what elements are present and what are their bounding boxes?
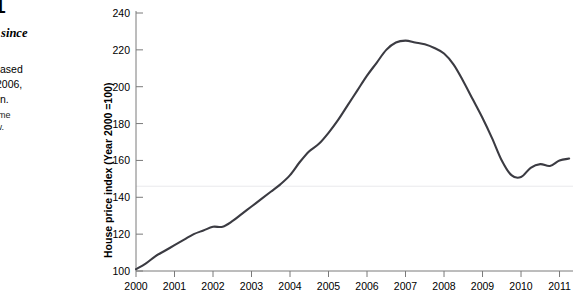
x-tick-label: 2002: [201, 280, 225, 292]
y-tick-label: 200: [112, 81, 130, 93]
x-tick-label: 2007: [394, 280, 418, 292]
figure-margin-column: 1 Prices since House price index ces inc…: [0, 0, 92, 296]
x-tick-label: 2005: [317, 280, 341, 292]
x-tick-label: 2003: [240, 280, 264, 292]
y-tick-label: 120: [112, 228, 130, 240]
y-tick-label: 220: [112, 44, 130, 56]
x-tick-label: 2008: [432, 280, 456, 292]
line-chart: House price index (Year 2000 =100) 10012…: [92, 0, 577, 296]
figure-description: House price index ces increased 2000 to …: [0, 62, 92, 107]
x-tick-label: 2004: [278, 280, 302, 292]
figure-description-line-1: ces increased: [0, 62, 92, 77]
x-tick-label: 2001: [163, 280, 187, 292]
y-tick-label: 240: [112, 7, 130, 19]
figure-source-line-3: s.com/: [0, 133, 92, 145]
x-tick-label: 2009: [471, 280, 495, 292]
figure-source: iller Home p://www. s.com/ us: [0, 110, 92, 156]
chart-plot-area: 1001201401601802002202402000200120022003…: [92, 0, 577, 296]
figure-description-line-3: since then.: [0, 92, 92, 107]
x-tick-label: 2011: [548, 280, 571, 292]
figure-source-line-2: p://www.: [0, 122, 92, 134]
y-tick-label: 180: [112, 118, 130, 130]
y-tick-label: 160: [112, 154, 130, 166]
series-line-house-price-index: [136, 41, 569, 270]
x-tick-label: 2006: [355, 280, 379, 292]
figure-source-line-4: us: [0, 145, 92, 157]
figure-title: Prices since: [0, 26, 92, 41]
figure-description-line-2: 2000 to 2006,: [0, 77, 92, 92]
y-tick-label: 140: [112, 191, 130, 203]
figure-number: 1: [0, 0, 5, 18]
figure-page: 1 Prices since House price index ces inc…: [0, 0, 577, 296]
x-tick-label: 2010: [509, 280, 533, 292]
y-tick-label: 100: [112, 265, 130, 277]
figure-source-line-1: iller Home: [0, 110, 92, 122]
x-tick-label: 2000: [124, 280, 148, 292]
